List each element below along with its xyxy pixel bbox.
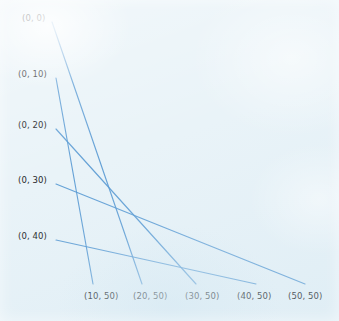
left-node-label: (0, 20) xyxy=(18,121,47,130)
connector-line xyxy=(56,184,305,284)
bottom-node-label: (50, 50) xyxy=(288,292,322,301)
left-node-label: (0, 40) xyxy=(18,232,47,241)
connector-lines-group xyxy=(0,0,339,321)
connector-line xyxy=(52,22,142,284)
connector-line xyxy=(56,78,93,284)
bottom-node-label: (20, 50) xyxy=(133,292,167,301)
edges-group xyxy=(52,22,305,284)
bottom-node-label: (30, 50) xyxy=(185,292,219,301)
left-node-label: (0, 30) xyxy=(18,176,47,185)
left-node-label: (0, 10) xyxy=(18,70,47,79)
bottom-node-label: (40, 50) xyxy=(237,292,271,301)
connector-line xyxy=(56,240,256,284)
diagram-canvas: (0, 0)(0, 10)(0, 20)(0, 30)(0, 40)(10, 5… xyxy=(0,0,339,321)
bottom-node-label: (10, 50) xyxy=(84,292,118,301)
connector-line xyxy=(56,129,196,284)
left-node-label: (0, 0) xyxy=(22,14,45,23)
